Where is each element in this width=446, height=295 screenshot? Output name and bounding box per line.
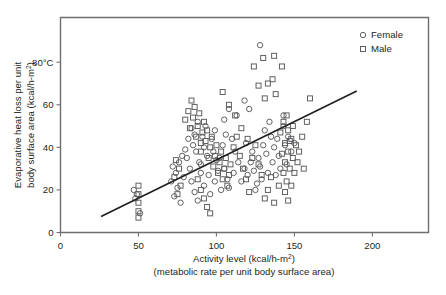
scatter-plot: 050100150200020406080°C Activity level (… [0,0,446,295]
point-female [270,160,275,165]
point-female [198,170,203,175]
x-axis-subtitle: (metabolic rate per unit body surface ar… [154,266,335,277]
point-male [192,104,197,109]
point-male [265,187,270,192]
point-female [250,149,255,154]
point-female [170,164,175,169]
point-male [220,90,225,95]
point-male [286,198,291,203]
x-tick-label-50: 50 [133,240,144,251]
point-female [192,189,197,194]
x-axis-title: Activity level (kcal/h-m2) [193,253,295,264]
point-female [189,125,194,130]
point-male [272,53,277,58]
point-female [289,149,294,154]
point-female [184,155,189,160]
point-female [236,160,241,165]
point-male [186,109,191,114]
point-female [220,143,225,148]
point-male [247,190,252,195]
x-tick-label-150: 150 [286,240,302,251]
regression-line [101,91,357,217]
point-female [223,132,228,137]
point-male [273,92,278,97]
point-male [304,119,309,124]
y-tick-label-60: 60 [43,99,54,110]
point-male [297,149,302,154]
point-female [253,187,258,192]
point-female [206,172,211,177]
point-male [307,96,312,101]
point-female [267,119,272,124]
point-female [246,106,251,111]
point-male [256,83,261,88]
figure-container: 050100150200020406080°C Activity level (… [0,0,446,295]
point-male [191,115,196,120]
point-male [136,183,141,188]
point-male [276,183,281,188]
point-male [211,164,216,169]
point-male [208,211,213,216]
x-tick-label-0: 0 [58,240,63,251]
point-male [283,190,288,195]
point-female [218,187,223,192]
legend-label-male: Male [371,43,392,54]
point-female [207,191,212,196]
point-male [228,162,233,167]
point-male [261,55,266,60]
point-female [261,143,266,148]
point-female [281,113,286,118]
point-female [189,179,194,184]
point-male [301,166,306,171]
point-female [254,181,259,186]
legend-label-female: Female [371,29,403,40]
point-female [251,168,256,173]
point-female [256,155,261,160]
point-female [190,143,195,148]
point-female [242,98,247,103]
point-male [219,149,224,154]
point-female [212,179,217,184]
x-tick-label-200: 200 [364,240,380,251]
point-male [195,177,200,182]
point-male [272,200,277,205]
point-female [275,136,280,141]
point-female [183,147,188,152]
y-axis-title-line1: Evaporative heat loss per unit [12,61,23,188]
point-male [279,64,284,69]
point-female [242,166,247,171]
point-male [262,196,267,201]
point-male [262,96,267,101]
point-female [195,198,200,203]
point-male [189,98,194,103]
point-male [300,134,305,139]
y-tick-label-40: 40 [43,142,54,153]
legend-marker-male [361,47,366,52]
point-female [187,166,192,171]
legend-marker-female [360,32,365,37]
point-female [186,136,191,141]
point-male [251,64,256,69]
trendline [101,91,357,217]
point-male [214,143,219,148]
point-male [237,153,242,158]
x-tick-label-100: 100 [208,240,224,251]
point-female [262,128,267,133]
axes: 050100150200020406080°C [32,18,428,251]
point-female [222,166,227,171]
point-female [212,128,217,133]
chart-legend: FemaleMale [360,29,403,54]
y-tick-label-0: 0 [48,227,53,238]
point-male [197,111,202,116]
point-female [222,117,227,122]
y-axis-title-line2: body surface area (kcal/h-m2) [25,62,36,188]
point-female [271,145,276,150]
point-female [234,113,239,118]
point-male [183,117,188,122]
point-male [278,130,283,135]
point-male [253,143,258,148]
point-female [178,200,183,205]
point-female [257,42,262,47]
point-male [205,204,210,209]
point-male [239,126,244,131]
